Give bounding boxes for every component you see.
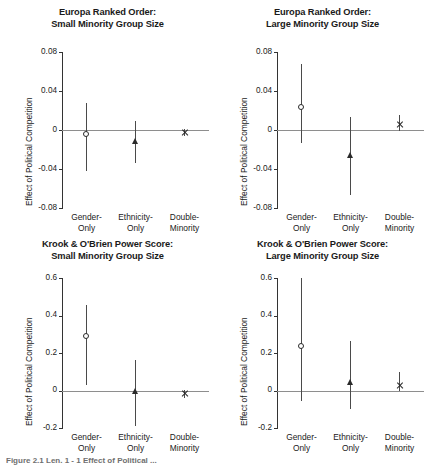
y-axis-tick — [274, 428, 278, 429]
data-point-marker-x — [181, 390, 189, 398]
y-axis-label: Effect of Political Competition — [24, 97, 34, 206]
error-bar — [301, 278, 302, 401]
panel-title-line2: Small Minority Group Size — [0, 18, 215, 30]
data-point-marker-circle — [298, 104, 304, 110]
error-bar — [86, 305, 87, 385]
category-label-line1: Gender- — [71, 212, 102, 222]
x-axis-category-label: Double-Minority — [151, 432, 219, 453]
y-axis-tick-label: 0.6 — [231, 273, 272, 282]
chart-panel-europa-small: Europa Ranked Order:Small Minority Group… — [0, 0, 215, 232]
panel-title-line1: Krook & O'Brien Power Score: — [42, 239, 173, 249]
category-label-line1: Gender- — [286, 212, 317, 222]
y-axis-tick — [59, 353, 63, 354]
category-label-line1: Ethnicity- — [118, 432, 152, 442]
data-point-marker-x — [181, 129, 189, 137]
y-axis-tick-label: -0.04 — [231, 164, 272, 173]
y-axis-tick-label: 0.4 — [231, 310, 272, 319]
panel-title: Krook & O'Brien Power Score:Small Minori… — [0, 238, 215, 262]
panel-title-line2: Small Minority Group Size — [0, 250, 215, 262]
panel-title: Europa Ranked Order:Large Minority Group… — [215, 6, 430, 30]
y-axis-tick — [274, 353, 278, 354]
y-axis-tick — [274, 91, 278, 92]
y-axis-tick-label: 0 — [16, 385, 57, 394]
category-label-line1: Ethnicity- — [333, 212, 367, 222]
y-axis-tick — [59, 428, 63, 429]
data-point-marker-x — [396, 120, 404, 128]
x-axis-category-label: Double-Minority — [366, 432, 430, 453]
chart-panel-europa-large: Europa Ranked Order:Large Minority Group… — [215, 0, 430, 232]
y-axis-tick — [274, 278, 278, 279]
y-axis-label: Effect of Political Competition — [24, 317, 34, 426]
panel-title-line2: Large Minority Group Size — [215, 250, 430, 262]
category-label-line1: Double- — [170, 212, 199, 222]
category-label-line1: Gender- — [286, 432, 317, 442]
y-axis-tick-label: 0.04 — [231, 86, 272, 95]
y-axis-tick-label: 0 — [231, 125, 272, 134]
y-axis-tick-label: 0 — [231, 385, 272, 394]
data-point-marker-circle — [83, 131, 89, 137]
y-axis-tick-label: 0.6 — [16, 273, 57, 282]
y-axis-label: Effect of Political Competition — [239, 317, 249, 426]
category-label-line2: Minority — [151, 443, 219, 454]
y-axis-tick — [59, 169, 63, 170]
panel-title: Krook & O'Brien Power Score:Large Minori… — [215, 238, 430, 262]
y-axis-tick — [59, 91, 63, 92]
category-label-line1: Double- — [170, 432, 199, 442]
y-axis-tick-label: -0.08 — [231, 203, 272, 212]
figure-caption: Figure 2.1 Len. 1 - 1 Effect of Politica… — [6, 456, 426, 465]
category-label-line1: Ethnicity- — [333, 432, 367, 442]
y-axis-tick-label: 0.2 — [16, 348, 57, 357]
y-axis-tick-label: 0.04 — [16, 86, 57, 95]
y-axis-tick-label: -0.08 — [16, 203, 57, 212]
data-point-marker-circle — [298, 343, 304, 349]
panel-title-line1: Europa Ranked Order: — [274, 7, 371, 17]
error-bar — [350, 341, 351, 409]
y-axis-tick — [59, 208, 63, 209]
chart-panel-krook-small: Krook & O'Brien Power Score:Small Minori… — [0, 232, 215, 458]
panel-title: Europa Ranked Order:Small Minority Group… — [0, 6, 215, 30]
y-axis-tick — [274, 208, 278, 209]
y-axis-tick — [274, 316, 278, 317]
data-point-marker-x — [396, 381, 404, 389]
y-axis-tick-label: 0 — [16, 125, 57, 134]
y-axis-tick-label: -0.2 — [16, 423, 57, 432]
y-axis-tick — [59, 316, 63, 317]
y-axis-tick — [274, 52, 278, 53]
y-axis-tick-label: 0.08 — [231, 47, 272, 56]
data-point-marker-triangle — [347, 152, 353, 158]
x-axis-category-label: Double-Minority — [366, 212, 430, 233]
x-axis-category-label: Double-Minority — [151, 212, 219, 233]
figure-container: Europa Ranked Order:Small Minority Group… — [0, 0, 430, 465]
category-label-line1: Gender- — [71, 432, 102, 442]
panel-title-line1: Europa Ranked Order: — [59, 7, 156, 17]
panel-title-line1: Krook & O'Brien Power Score: — [257, 239, 388, 249]
data-point-marker-triangle — [132, 138, 138, 144]
data-point-marker-circle — [83, 333, 89, 339]
category-label-line1: Ethnicity- — [118, 212, 152, 222]
data-point-marker-triangle — [347, 379, 353, 385]
y-axis-tick-label: 0.2 — [231, 348, 272, 357]
y-axis-tick-label: 0.4 — [16, 310, 57, 319]
y-axis-label: Effect of Political Competition — [239, 97, 249, 206]
y-axis-tick — [59, 278, 63, 279]
y-axis-tick — [59, 52, 63, 53]
category-label-line2: Minority — [366, 443, 430, 454]
y-axis-tick — [274, 169, 278, 170]
y-axis-tick-label: 0.08 — [16, 47, 57, 56]
y-axis-tick-label: -0.2 — [231, 423, 272, 432]
panel-grid: Europa Ranked Order:Small Minority Group… — [0, 0, 430, 458]
category-label-line1: Double- — [385, 432, 414, 442]
y-axis-tick-label: -0.04 — [16, 164, 57, 173]
category-label-line1: Double- — [385, 212, 414, 222]
chart-panel-krook-large: Krook & O'Brien Power Score:Large Minori… — [215, 232, 430, 458]
data-point-marker-triangle — [132, 388, 138, 394]
panel-title-line2: Large Minority Group Size — [215, 18, 430, 30]
